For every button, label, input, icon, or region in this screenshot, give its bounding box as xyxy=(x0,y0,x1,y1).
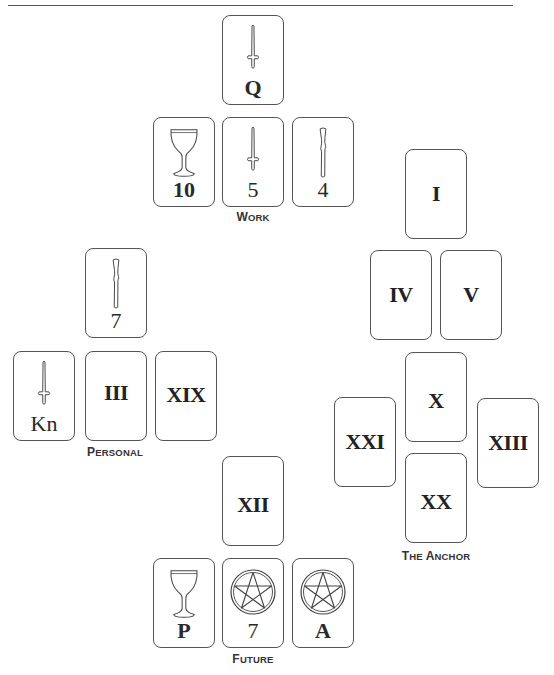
card-anchor-x[interactable]: X xyxy=(405,352,467,442)
wand-icon xyxy=(86,257,146,311)
card-value: 5 xyxy=(223,178,283,202)
sword-icon xyxy=(223,126,283,180)
spread-label-future: Future xyxy=(232,652,273,666)
card-value: XII xyxy=(223,457,283,545)
pentacle-icon xyxy=(293,565,353,619)
spread-label-work: Work xyxy=(236,210,269,224)
card-value: V xyxy=(441,251,501,339)
card-work-5-of-swords[interactable]: 5 xyxy=(222,117,284,207)
card-work-queen-of-swords[interactable]: Q xyxy=(222,15,284,105)
card-value: III xyxy=(86,352,146,440)
card-value: XX xyxy=(406,454,466,542)
spread-label-anchor: The Anchor xyxy=(402,549,471,563)
card-future-ace-of-pentacles[interactable]: A xyxy=(292,558,354,648)
card-value: 7 xyxy=(86,309,146,333)
card-value: Kn xyxy=(14,412,74,436)
card-personal-iii[interactable]: III xyxy=(85,351,147,441)
card-anchor-xxi[interactable]: XXI xyxy=(334,397,396,487)
card-future-page-of-cups[interactable]: P xyxy=(153,558,215,648)
card-value: X xyxy=(406,353,466,441)
card-value: XIX xyxy=(156,352,216,440)
card-personal-knight-of-swords[interactable]: Kn xyxy=(13,351,75,441)
card-future-xii[interactable]: XII xyxy=(222,456,284,546)
card-anchor-iv[interactable]: IV xyxy=(370,250,432,340)
card-value: XIII xyxy=(478,399,538,487)
sword-icon xyxy=(223,24,283,78)
spread-label-personal: Personal xyxy=(87,445,143,459)
card-value: A xyxy=(293,619,353,643)
card-value: P xyxy=(154,619,214,643)
cup-icon xyxy=(154,126,214,180)
card-future-7-of-pentacles[interactable]: 7 xyxy=(222,558,284,648)
card-anchor-xx[interactable]: XX xyxy=(405,453,467,543)
card-personal-xix[interactable]: XIX xyxy=(155,351,217,441)
pentacle-icon xyxy=(223,565,283,619)
card-personal-7-of-wands[interactable]: 7 xyxy=(85,248,147,338)
card-anchor-xiii[interactable]: XIII xyxy=(477,398,539,488)
card-value: IV xyxy=(371,251,431,339)
card-value: Q xyxy=(223,76,283,100)
card-value: I xyxy=(406,150,466,238)
card-value: XXI xyxy=(335,398,395,486)
card-value: 4 xyxy=(293,178,353,202)
card-value: 7 xyxy=(223,619,283,643)
card-work-4-of-wands[interactable]: 4 xyxy=(292,117,354,207)
card-work-10-of-cups[interactable]: 10 xyxy=(153,117,215,207)
wand-icon xyxy=(293,126,353,180)
card-value: 10 xyxy=(154,178,214,202)
sword-icon xyxy=(14,360,74,414)
card-anchor-i[interactable]: I xyxy=(405,149,467,239)
cup-icon xyxy=(154,567,214,621)
top-rule xyxy=(8,5,513,6)
card-anchor-v[interactable]: V xyxy=(440,250,502,340)
